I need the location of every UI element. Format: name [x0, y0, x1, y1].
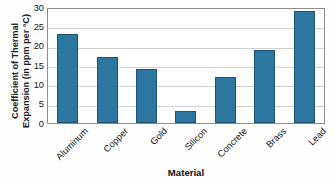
y-axis-tick-label: 20	[28, 42, 44, 51]
bar-slot	[206, 9, 245, 123]
y-axis-tick-labels: 302520151050	[28, 0, 44, 184]
y-axis-tick-label: 15	[28, 62, 44, 71]
bar	[175, 111, 196, 123]
y-axis-tick-label: 10	[28, 81, 44, 90]
plot-area	[47, 8, 325, 124]
y-axis-title-line1: Coefficient of Thermal	[10, 14, 22, 128]
bar	[57, 34, 78, 123]
y-axis-tick-label: 5	[28, 100, 44, 109]
bar	[97, 57, 118, 123]
bar-slot	[127, 9, 166, 123]
bar-slot	[87, 9, 126, 123]
bar	[254, 50, 275, 123]
y-axis-tick-label: 25	[28, 23, 44, 32]
x-axis-tick-labels: AluminumCopperGoldSiliconConcreteBrassLe…	[47, 124, 325, 166]
bar	[294, 11, 315, 123]
bar-chart: Coefficient of Thermal Expansion (in ppm…	[0, 0, 334, 184]
bar-series	[48, 9, 324, 123]
bar-slot	[48, 9, 87, 123]
y-axis-tick-label: 0	[28, 120, 44, 129]
bar	[136, 69, 157, 123]
bar	[215, 77, 236, 123]
x-axis-title: Material	[47, 167, 325, 178]
bar-slot	[285, 9, 324, 123]
bar-slot	[166, 9, 205, 123]
bar-slot	[245, 9, 284, 123]
y-axis-tick-label: 30	[28, 4, 44, 13]
